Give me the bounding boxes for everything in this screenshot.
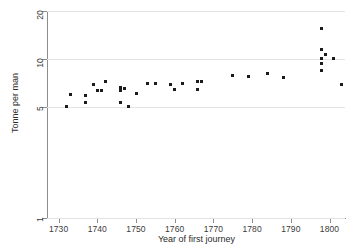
data-point: [135, 92, 138, 95]
data-point: [119, 101, 122, 104]
x-axis-tick: [330, 219, 331, 223]
data-point: [104, 80, 107, 83]
data-point: [173, 88, 176, 91]
data-point: [146, 82, 149, 85]
y-axis-tick-label: 20: [35, 10, 45, 50]
x-axis-tick: [252, 219, 253, 223]
x-axis-tick: [291, 219, 292, 223]
x-axis-tick-label: 1750: [119, 224, 153, 234]
data-point: [169, 83, 172, 86]
gridline-y: [47, 59, 345, 60]
data-point: [96, 89, 99, 92]
gridline-y: [47, 218, 345, 219]
plot-area: [47, 11, 345, 218]
data-point: [320, 57, 323, 60]
data-point: [332, 57, 335, 60]
x-axis-tick: [59, 219, 60, 223]
x-axis-tick-label: 1730: [42, 224, 76, 234]
data-point: [266, 72, 269, 75]
data-point: [196, 80, 199, 83]
data-point: [92, 83, 95, 86]
gridline-y: [47, 11, 345, 12]
x-axis-tick-label: 1740: [80, 224, 114, 234]
data-point: [69, 93, 72, 96]
data-point: [247, 75, 250, 78]
x-axis-tick: [97, 219, 98, 223]
x-axis-tick: [175, 219, 176, 223]
data-point: [123, 87, 126, 90]
data-point: [181, 82, 184, 85]
x-axis-title: Year of first journey: [47, 234, 346, 244]
x-axis-tick: [213, 219, 214, 223]
gridline-y: [47, 107, 345, 108]
data-point: [119, 89, 122, 92]
scatter-chart: Tonne per man 15102017301740175017601770…: [0, 0, 355, 249]
data-point: [200, 80, 203, 83]
data-point: [84, 94, 87, 97]
x-axis-tick-label: 1770: [196, 224, 230, 234]
data-point: [65, 105, 68, 108]
data-point: [324, 53, 327, 56]
y-axis-tick-label: 5: [35, 106, 45, 146]
data-point: [196, 88, 199, 91]
x-axis-tick-label: 1780: [235, 224, 269, 234]
data-point: [231, 74, 234, 77]
data-point: [154, 82, 157, 85]
x-axis-tick-label: 1800: [313, 224, 347, 234]
y-axis-tick-label: 10: [35, 58, 45, 98]
data-point: [320, 27, 323, 30]
data-point: [84, 101, 87, 104]
data-point: [127, 105, 130, 108]
data-point: [320, 48, 323, 51]
x-axis-tick-label: 1760: [158, 224, 192, 234]
data-point: [282, 76, 285, 79]
data-point: [340, 83, 343, 86]
data-point: [320, 69, 323, 72]
data-point: [100, 89, 103, 92]
x-axis-tick-label: 1790: [274, 224, 308, 234]
x-axis-tick: [136, 219, 137, 223]
data-point: [320, 62, 323, 65]
